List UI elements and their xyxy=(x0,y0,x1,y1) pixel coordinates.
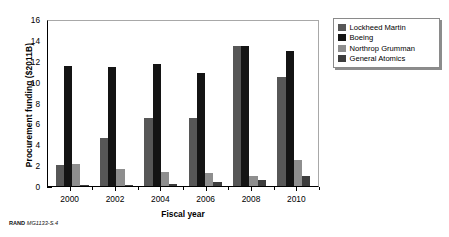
x-axis-minor-tick xyxy=(274,187,275,190)
source-label: RAND xyxy=(9,220,25,226)
x-axis-tick-label: 2008 xyxy=(228,194,274,204)
bar xyxy=(249,176,257,186)
bar xyxy=(161,172,169,186)
x-axis-tick-label: 2006 xyxy=(183,194,229,204)
legend: Lockheed MartinBoeingNorthrop GrummanGen… xyxy=(333,18,440,68)
y-axis-tick-label: 4 xyxy=(14,140,40,150)
x-axis-tick-label: 2002 xyxy=(92,194,138,204)
source-code: MG1133-S.4 xyxy=(27,220,58,226)
bar xyxy=(144,118,152,186)
y-axis-tick-label: 8 xyxy=(14,99,40,109)
bar xyxy=(72,164,80,186)
bar-group xyxy=(272,21,316,186)
y-axis-tick-label: 6 xyxy=(14,119,40,129)
y-axis-tick-label: 14 xyxy=(14,36,40,46)
x-axis-tick xyxy=(296,187,297,191)
bar xyxy=(64,66,72,186)
y-axis-tick-label: 0 xyxy=(14,182,40,192)
x-axis-tick xyxy=(115,187,116,191)
y-axis-tick-label: 2 xyxy=(14,161,40,171)
x-axis-minor-tick xyxy=(138,187,139,190)
x-axis-minor-tick xyxy=(92,187,93,190)
x-axis-minor-tick xyxy=(319,187,320,190)
bar xyxy=(277,77,285,186)
bar xyxy=(294,160,302,186)
legend-item: General Atomics xyxy=(338,54,436,64)
x-axis-tick xyxy=(206,187,207,191)
legend-swatch-icon xyxy=(338,34,346,41)
x-axis-tick-label: 2004 xyxy=(137,194,183,204)
bar xyxy=(125,185,133,186)
x-axis-minor-tick xyxy=(228,187,229,190)
y-axis-tick xyxy=(47,187,52,188)
bar xyxy=(153,64,161,186)
y-axis-tick-label: 12 xyxy=(14,57,40,67)
bar xyxy=(108,67,116,186)
legend-item-label: General Atomics xyxy=(350,54,406,63)
legend-swatch-icon xyxy=(338,45,346,52)
x-axis-minor-tick xyxy=(183,187,184,190)
x-axis-title: Fiscal year xyxy=(47,209,319,219)
bar xyxy=(213,182,221,186)
bar xyxy=(189,118,197,186)
legend-item-label: Boeing xyxy=(350,33,374,42)
bar-group xyxy=(50,21,94,186)
x-axis-tick xyxy=(160,187,161,191)
legend-item: Northrop Grumman xyxy=(338,43,436,53)
bar xyxy=(302,176,310,186)
bar-chart-figure: Procurement funding ($2011B) 02468101214… xyxy=(0,0,449,237)
legend-item: Lockheed Martin xyxy=(338,22,436,32)
bar xyxy=(100,138,108,186)
bar-group xyxy=(227,21,271,186)
bar-group xyxy=(139,21,183,186)
bar xyxy=(205,173,213,186)
bar xyxy=(116,169,124,186)
x-axis-tick xyxy=(251,187,252,191)
figure-source-note: RAND MG1133-S.4 xyxy=(9,220,58,226)
x-axis-tick-label: 2010 xyxy=(273,194,319,204)
legend-item: Boeing xyxy=(338,33,436,43)
bar xyxy=(258,180,266,186)
y-axis-tick-label: 10 xyxy=(14,78,40,88)
bar xyxy=(197,73,205,186)
bar-group xyxy=(183,21,227,186)
bar xyxy=(241,46,249,186)
legend-item-label: Northrop Grumman xyxy=(350,44,415,53)
bar xyxy=(80,185,88,186)
bar-groups xyxy=(48,21,318,186)
legend-swatch-icon xyxy=(338,24,346,31)
y-axis-tick-label: 16 xyxy=(14,15,40,25)
bar-group xyxy=(94,21,138,186)
plot-area xyxy=(47,20,319,187)
bar xyxy=(169,184,177,186)
legend-item-label: Lockheed Martin xyxy=(350,23,406,32)
legend-swatch-icon xyxy=(338,55,346,62)
bar xyxy=(286,51,294,186)
bar xyxy=(56,165,64,186)
bar xyxy=(233,46,241,186)
x-axis-tick xyxy=(70,187,71,191)
x-axis-tick-label: 2000 xyxy=(47,194,93,204)
